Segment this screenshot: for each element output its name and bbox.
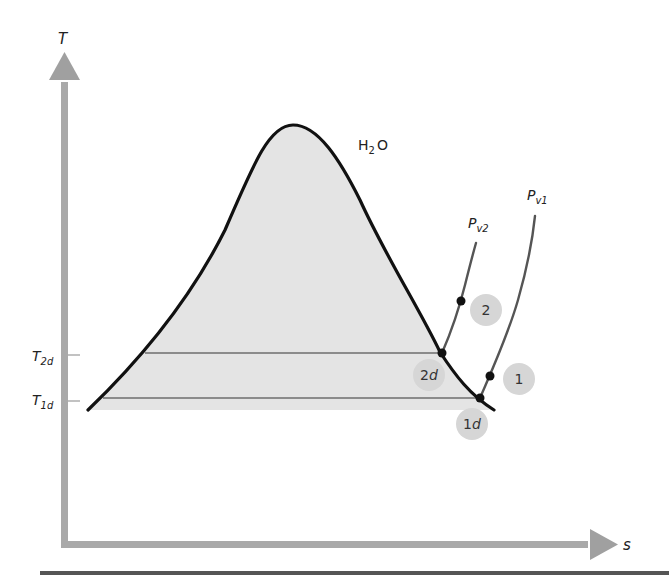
substance-label: H2O [358, 137, 388, 156]
svg-text:1: 1 [515, 371, 524, 387]
state-point-2 [457, 297, 466, 306]
tick-label-t1d: T1d [32, 392, 54, 411]
tick-label-t2d: T2d [32, 348, 54, 367]
t-s-diagram: T s T2d T1d H2O Pv2 Pv1 2 2d [0, 0, 669, 583]
state-label-2: 2 [470, 294, 502, 326]
x-axis-arrow [590, 529, 618, 560]
isobar-pv2-label: Pv2 [468, 215, 489, 234]
x-axis [61, 541, 588, 548]
state-label-1: 1 [503, 363, 535, 395]
svg-text:2: 2 [482, 302, 491, 318]
state-label-2d: 2d [413, 359, 445, 391]
state-point-2d [438, 349, 447, 358]
state-label-1d: 1d [456, 408, 488, 440]
svg-text:2d: 2d [420, 367, 438, 383]
isobar-pv1-label: Pv1 [527, 187, 548, 206]
y-axis [61, 82, 68, 545]
y-axis-arrow [49, 52, 80, 80]
bottom-rule [40, 571, 669, 575]
state-point-1d [476, 394, 485, 403]
y-axis-label: T [58, 30, 69, 48]
x-axis-label: s [623, 536, 631, 554]
state-point-1 [486, 372, 495, 381]
svg-text:1d: 1d [463, 416, 481, 432]
